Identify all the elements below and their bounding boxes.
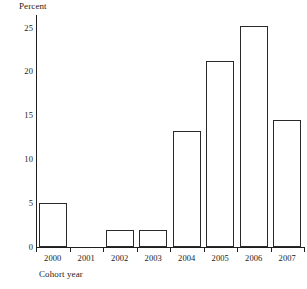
x-tick-mark (103, 247, 104, 252)
bar-2002 (106, 230, 134, 248)
bar-chart: Percent 0510152025 200020012002200320042… (0, 0, 307, 289)
x-tick-label-2000: 2000 (44, 253, 61, 263)
x-tick-mark (70, 247, 71, 252)
bar-2000 (39, 203, 67, 247)
y-tick-label: 20 (24, 67, 33, 76)
x-axis-title: Cohort year (39, 269, 83, 280)
x-tick-mark (237, 247, 238, 252)
bar-2005 (206, 61, 234, 247)
y-tick-label: 5 (29, 199, 33, 208)
bars-layer (36, 15, 304, 247)
bar-2003 (139, 230, 167, 248)
bar-2006 (240, 26, 268, 247)
x-tick-label-2003: 2003 (145, 253, 162, 263)
x-tick-label-2006: 2006 (245, 253, 262, 263)
bar-2004 (173, 131, 201, 247)
x-tick-mark (170, 247, 171, 252)
x-tick-label-2007: 2007 (279, 253, 296, 263)
y-tick-label: 10 (24, 155, 33, 164)
x-tick-label-2001: 2001 (78, 253, 95, 263)
y-tick-label: 15 (24, 111, 33, 120)
y-tick-label: 0 (29, 243, 33, 252)
x-tick-mark (36, 247, 37, 252)
x-tick-mark (271, 247, 272, 252)
x-tick-mark (304, 247, 305, 252)
x-tick-label-2002: 2002 (111, 253, 128, 263)
bar-2007 (273, 120, 301, 247)
x-tick-mark (204, 247, 205, 252)
y-axis-tick-labels: 0510152025 (14, 0, 33, 289)
x-tick-label-2004: 2004 (178, 253, 195, 263)
y-tick-label: 25 (24, 24, 33, 33)
x-tick-label-2005: 2005 (212, 253, 229, 263)
x-tick-mark (137, 247, 138, 252)
